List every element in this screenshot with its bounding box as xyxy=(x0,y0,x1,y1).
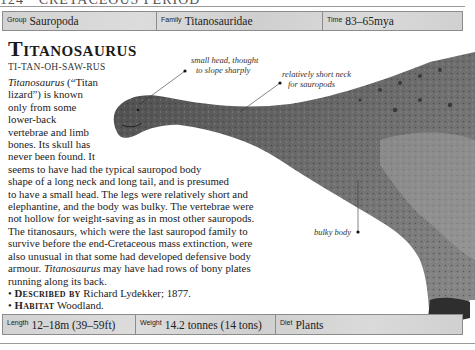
bottom-rule xyxy=(0,343,475,344)
description-line: bones. Its skull has xyxy=(8,138,278,150)
page-title: Titanosaurus xyxy=(8,36,137,62)
description-line: survive before the end-Cretaceous mass e… xyxy=(8,237,278,249)
annotation-line: relatively short neck xyxy=(282,69,351,79)
text-run: may have had rows of bony plates xyxy=(100,262,250,274)
description-line: vertebrae and limb xyxy=(8,126,278,138)
annotation-neck: relatively short neck for sauropods xyxy=(282,69,351,89)
family-label: Family xyxy=(161,16,182,23)
description-line: never been found. It xyxy=(8,150,278,162)
diet-label: Diet xyxy=(280,319,292,326)
annotation-line: bulky body xyxy=(314,227,351,237)
diet-value: Plants xyxy=(295,319,323,331)
description-line: lower-back xyxy=(8,113,278,125)
pronunciation: TI-TAN-OH-SAW-RUS xyxy=(8,62,106,72)
annotation-line: small head, thought xyxy=(189,55,258,65)
description-line: running along its back. xyxy=(8,275,278,287)
group-label: Group xyxy=(7,16,26,23)
italic-name: Titanosaurus xyxy=(8,76,64,88)
annotation-body: bulky body xyxy=(314,227,351,237)
taxonomy-bar: Group Sauropoda Family Titanosauridae Ti… xyxy=(2,11,463,31)
time-label: Time xyxy=(327,16,342,23)
time-value: 83–65mya xyxy=(345,15,394,27)
described-by: • Described by Richard Lydekker; 1877. xyxy=(8,287,278,299)
description-line: lizard”) is known xyxy=(8,88,278,100)
length-value: 12–18m (39–59ft) xyxy=(31,319,115,331)
weight-label: Weight xyxy=(140,319,162,326)
stats-bar: Length 12–18m (39–59ft) Weight 14.2 tonn… xyxy=(2,314,463,335)
description-line: The titanosaurs, which were the last sau… xyxy=(8,225,278,237)
length-cell: Length 12–18m (39–59ft) xyxy=(3,315,136,334)
text-run: armour. xyxy=(8,262,44,274)
description-line: not hollow for weight-saving as in most … xyxy=(8,212,278,224)
family-value: Titanosauridae xyxy=(185,15,253,27)
weight-value: 14.2 tonnes (14 tons) xyxy=(165,319,262,331)
habitat-value: Woodland. xyxy=(57,299,104,311)
described-by-label: Described by xyxy=(14,287,80,299)
diet-cell: Diet Plants xyxy=(276,315,462,334)
habitat: • Habitat Woodland. xyxy=(8,299,278,311)
length-label: Length xyxy=(7,319,28,326)
group-value: Sauropoda xyxy=(29,15,78,27)
described-by-value: Richard Lydekker; 1877. xyxy=(83,287,191,299)
description-line: elephantine, and the body was bulky. The… xyxy=(8,200,278,212)
habitat-label: Habitat xyxy=(14,299,54,311)
description-line: armour. Titanosaurus may have had rows o… xyxy=(8,262,278,274)
text-run: (“Titan xyxy=(64,76,98,88)
description-line: to have a small head. The legs were rela… xyxy=(8,188,278,200)
weight-cell: Weight 14.2 tonnes (14 tons) xyxy=(136,315,276,334)
annotation-head: small head, thought to slope sharply xyxy=(189,55,258,75)
family-cell: Family Titanosauridae xyxy=(157,12,323,30)
description: Titanosaurus (“Titan lizard”) is known o… xyxy=(8,76,278,312)
group-cell: Group Sauropoda xyxy=(3,12,157,30)
description-line: only from some xyxy=(8,101,278,113)
description-line: Titanosaurus (“Titan xyxy=(8,76,278,88)
italic-name: Titanosaurus xyxy=(44,262,100,274)
annotation-line: for sauropods xyxy=(282,79,351,89)
description-line: shape of a long neck and long tail, and … xyxy=(8,175,278,187)
description-line: seems to have had the typical sauropod b… xyxy=(8,163,278,175)
annotation-line: to slope sharply xyxy=(189,65,258,75)
time-cell: Time 83–65mya xyxy=(323,12,462,30)
description-line: also unusual in that some had developed … xyxy=(8,250,278,262)
